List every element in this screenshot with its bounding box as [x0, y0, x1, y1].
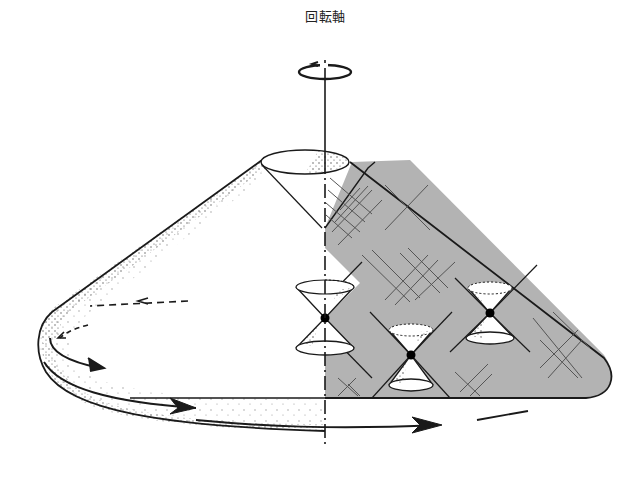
- event-point: [486, 309, 495, 318]
- rotating-cone-diagram: [0, 0, 636, 483]
- event-point: [407, 351, 416, 360]
- shaded-strip: [325, 160, 611, 398]
- cone-surface: [38, 160, 325, 431]
